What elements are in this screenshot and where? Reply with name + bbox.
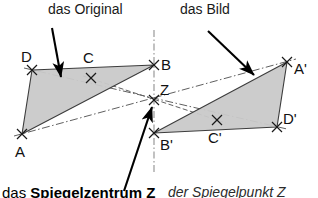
- figure-canvas: das Original das Bild A B D C A' B' D' C…: [0, 0, 318, 198]
- caption-left-bold: Spiegelzentrum Z: [30, 184, 155, 198]
- label-vertex-b-prime: B': [160, 136, 173, 153]
- title-image: das Bild: [180, 1, 230, 17]
- label-vertex-b: B: [161, 56, 171, 73]
- caption-spiegelpunkt: der Spiegelpunkt Z: [168, 184, 286, 198]
- label-vertex-c-prime: C': [208, 129, 222, 146]
- label-vertex-d: D: [21, 48, 32, 65]
- label-vertex-a-prime: A': [294, 60, 307, 77]
- mirror-symmetry-figure: das Original das Bild A B D C A' B' D' C…: [0, 0, 318, 198]
- label-vertex-d-prime: D': [283, 110, 297, 127]
- label-vertex-a: A: [15, 143, 25, 160]
- caption-left-prefix: das: [2, 184, 30, 198]
- caption-spiegelzentrum: das Spiegelzentrum Z: [2, 184, 155, 198]
- label-center-z: Z: [160, 81, 169, 98]
- label-vertex-c: C: [83, 49, 94, 66]
- title-original: das Original: [48, 1, 123, 17]
